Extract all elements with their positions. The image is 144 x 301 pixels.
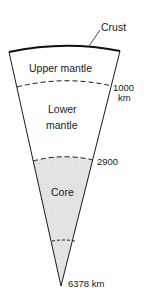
label-lower-mantle-line1: Lower xyxy=(48,103,77,115)
depth-1000-unit: km xyxy=(118,92,131,103)
label-lower-mantle-line2: mantle xyxy=(46,119,78,131)
depth-2900-value: 2900 xyxy=(97,156,118,167)
boundary-1000km-dashed xyxy=(17,81,112,87)
crust-leader-line xyxy=(89,30,100,46)
core-region xyxy=(33,157,93,286)
earth-structure-diagram: Crust Upper mantle Lower mantle Core 100… xyxy=(0,0,144,301)
depth-center-value: 6378 km xyxy=(68,278,105,289)
crust-surface-arc xyxy=(9,46,120,52)
label-crust: Crust xyxy=(101,21,126,33)
label-core: Core xyxy=(51,186,74,198)
label-upper-mantle: Upper mantle xyxy=(29,62,92,74)
